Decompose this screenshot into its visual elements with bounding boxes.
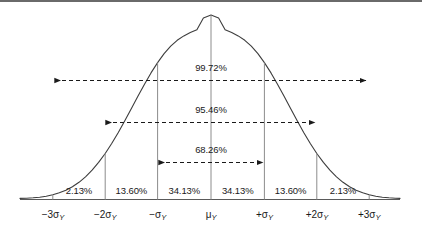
interval-label-one-sigma: 68.26% [195,144,227,155]
axis-label-mu-sub: Y [212,213,217,222]
axis-label-mu: μY [206,209,217,220]
axis-label-minus-2-sigma-sub: Y [112,213,117,222]
axis-label-minus-1-sigma: −σY [149,209,166,220]
axis-label-minus-2-sigma: −2σY [94,209,116,220]
axis-label-plus-3-sigma: +3σY [358,209,380,220]
axis-label-minus-3-sigma: −3σY [42,209,64,220]
distribution-plot [0,0,422,232]
axis-label-minus-3-sigma-sub: Y [59,213,64,222]
axis-label-plus-3-sigma-sub: Y [376,213,381,222]
axis-label-plus-2-sigma-main: +2σ [306,209,323,220]
band-label-mu-to-plus-1: 34.13% [222,185,254,196]
band-label-minus-2-to-minus-1: 13.60% [116,185,148,196]
axis-label-plus-1-sigma-main: +σ [256,209,268,220]
axis-label-minus-1-sigma-sub: Y [161,213,166,222]
axis-label-mu-main: μ [206,209,212,220]
band-label-plus-1-to-plus-2: 13.60% [275,185,307,196]
axis-label-plus-1-sigma-sub: Y [268,213,273,222]
axis-label-plus-2-sigma: +2σY [306,209,328,220]
axis-label-plus-1-sigma: +σY [256,209,273,220]
band-label-minus-3-to-minus-2: 2.13% [66,185,92,196]
axis-label-plus-2-sigma-sub: Y [323,213,328,222]
band-label-minus-1-to-mu: 34.13% [168,185,200,196]
axis-label-minus-2-sigma-main: −2σ [94,209,111,220]
axis-label-plus-3-sigma-main: +3σ [358,209,375,220]
normal-distribution-figure: 99.72% 95.46% 68.26% 2.13% 13.60% 34.13%… [0,0,422,232]
axis-label-minus-3-sigma-main: −3σ [42,209,59,220]
interval-label-two-sigma: 95.46% [195,104,227,115]
axis-label-minus-1-sigma-main: −σ [149,209,161,220]
band-label-plus-2-to-plus-3: 2.13% [330,185,356,196]
interval-label-three-sigma: 99.72% [195,62,227,73]
